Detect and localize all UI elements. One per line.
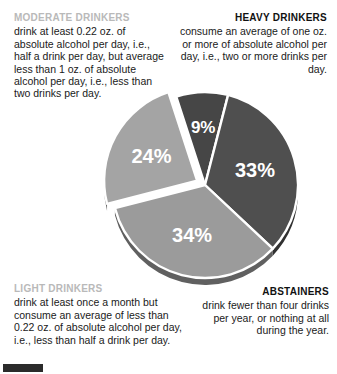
callout-heading-moderate-drinkers: MODERATE DRINKERS: [14, 12, 164, 24]
pie-chart: 9%33%34%24%: [96, 72, 318, 298]
callout-body-heavy-drinkers: consume an average of one oz. or more of…: [180, 25, 327, 74]
footer-bar: [3, 364, 43, 372]
pie-slice-label: 24%: [131, 145, 171, 167]
callout-heavy-drinkers: HEAVY DRINKERS consume an average of one…: [175, 12, 327, 75]
pie-chart-infographic: MODERATE DRINKERS drink at least 0.22 oz…: [0, 0, 337, 374]
callout-heading-heavy-drinkers: HEAVY DRINKERS: [175, 12, 327, 24]
pie-chart-svg: 9%33%34%24%: [96, 72, 318, 298]
callout-body-abstainers: drink fewer than four drinks per year, o…: [202, 299, 329, 336]
pie-slice-label: 33%: [235, 159, 275, 181]
pie-slice-label: 34%: [172, 224, 212, 246]
pie-slice-label: 9%: [191, 118, 216, 137]
callout-body-light-drinkers: drink at least once a month but consume …: [14, 296, 182, 345]
